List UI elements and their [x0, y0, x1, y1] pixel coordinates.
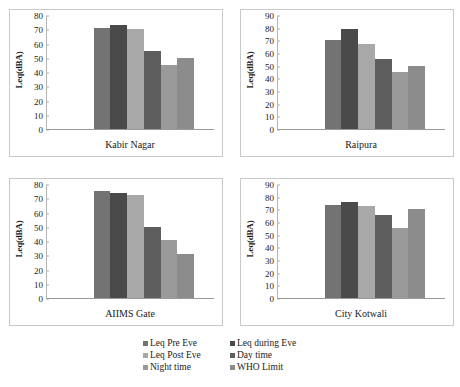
bar: [408, 209, 425, 298]
category-label: Kabir Nagar: [46, 139, 214, 150]
y-axis-ticks: 01020304050607080: [24, 185, 46, 299]
legend-item: Leq during Eve: [230, 337, 296, 349]
bar: [144, 51, 161, 129]
legend-item-label: Day time: [237, 349, 272, 361]
legend-item-label: Leq during Eve: [237, 337, 296, 349]
legend-swatch-icon: [143, 341, 148, 346]
y-axis-tick-label: 80: [265, 193, 274, 202]
y-axis-tick-label: 50: [34, 223, 43, 232]
y-axis-tick-label: 30: [34, 252, 43, 261]
legend-item: Leq Post Eve: [143, 349, 230, 361]
category-label: Raipura: [277, 139, 445, 150]
chart-area: Leq(dBA) 01020304050607080 AIIMS Gate: [10, 179, 222, 325]
y-axis-tick-label: 60: [265, 218, 274, 227]
legend-swatch-icon: [230, 341, 235, 346]
y-axis-ticks: 0102030405060708090: [255, 185, 277, 299]
bar: [408, 66, 425, 129]
chart-area: Leq(dBA) 0102030405060708090 Raipura: [241, 10, 453, 156]
chart-panel-kabir-nagar: Leq(dBA) 01020304050607080 Kabir Nagar: [9, 9, 223, 157]
y-axis-tick-label: 40: [34, 238, 43, 247]
y-axis-tick-label: 30: [34, 83, 43, 92]
bar-group: [278, 16, 445, 129]
bar: [392, 72, 409, 129]
bar: [127, 195, 144, 298]
y-axis-tick-label: 90: [265, 12, 274, 21]
y-axis-tick-label: 40: [265, 75, 274, 84]
panel-grid: Leq(dBA) 01020304050607080 Kabir Nagar L…: [0, 0, 460, 332]
bar: [341, 29, 358, 129]
legend-swatch-icon: [143, 365, 148, 370]
legend-item: Night time: [143, 361, 230, 373]
chart-area: Leq(dBA) 0102030405060708090 City Kotwal…: [241, 179, 453, 325]
bar: [358, 206, 375, 298]
y-axis-tick-label: 20: [265, 269, 274, 278]
legend-item: Day time: [230, 349, 296, 361]
legend-swatch-icon: [230, 353, 235, 358]
bar: [375, 59, 392, 129]
y-axis-tick-label: 20: [34, 97, 43, 106]
bar: [161, 65, 178, 129]
bar: [325, 40, 342, 129]
bar: [144, 227, 161, 298]
y-axis-tick-label: 40: [34, 69, 43, 78]
plot-area: [46, 16, 214, 130]
y-axis-tick-label: 70: [34, 26, 43, 35]
y-axis-label-text: Leq(dBA): [14, 52, 24, 89]
y-axis-tick-label: 0: [39, 126, 44, 135]
bar: [94, 28, 111, 129]
bar: [127, 29, 144, 129]
y-axis-tick-label: 10: [34, 111, 43, 120]
bar: [358, 44, 375, 129]
legend-swatch-icon: [230, 365, 235, 370]
category-label: AIIMS Gate: [46, 308, 214, 319]
y-axis-label-text: Leq(dBA): [14, 221, 24, 258]
bar: [375, 215, 392, 298]
y-axis-tick-label: 0: [270, 126, 275, 135]
bar: [110, 193, 127, 298]
bar: [392, 228, 409, 298]
legend-item-label: Leq Pre Eve: [150, 337, 197, 349]
bar: [177, 254, 194, 298]
bar-group: [47, 16, 214, 129]
y-axis-tick-label: 30: [265, 256, 274, 265]
y-axis-label-text: Leq(dBA): [245, 52, 255, 89]
legend-item: Leq Pre Eve: [143, 337, 230, 349]
bar: [94, 191, 111, 298]
y-axis-tick-label: 70: [265, 37, 274, 46]
bar-group: [278, 185, 445, 298]
y-axis-tick-label: 60: [265, 49, 274, 58]
bar: [177, 58, 194, 129]
y-axis-tick-label: 20: [34, 266, 43, 275]
chart-area: Leq(dBA) 01020304050607080 Kabir Nagar: [10, 10, 222, 156]
bar: [325, 205, 342, 298]
y-axis-ticks: 0102030405060708090: [255, 16, 277, 130]
legend-items: Leq Pre EveLeq during EveLeq Post EveDay…: [143, 337, 296, 373]
y-axis-tick-label: 50: [265, 62, 274, 71]
bar-group: [47, 185, 214, 298]
y-axis-tick-label: 70: [265, 206, 274, 215]
plot-area: [46, 185, 214, 299]
legend-item-label: Night time: [150, 361, 191, 373]
y-axis-label-text: Leq(dBA): [245, 221, 255, 258]
y-axis-ticks: 01020304050607080: [24, 16, 46, 130]
legend: Leq Pre EveLeq during EveLeq Post EveDay…: [0, 334, 460, 387]
y-axis-tick-label: 10: [34, 280, 43, 289]
category-label: City Kotwali: [277, 308, 445, 319]
y-axis-tick-label: 40: [265, 244, 274, 253]
chart-panel-raipura: Leq(dBA) 0102030405060708090 Raipura: [240, 9, 454, 157]
y-axis-tick-label: 10: [265, 113, 274, 122]
y-axis-tick-label: 0: [270, 295, 275, 304]
legend-item-label: Leq Post Eve: [150, 349, 201, 361]
y-axis-tick-label: 30: [265, 87, 274, 96]
legend-swatch-icon: [143, 353, 148, 358]
bar: [110, 25, 127, 129]
plot-area: [277, 16, 445, 130]
y-axis-tick-label: 50: [34, 54, 43, 63]
y-axis-tick-label: 70: [34, 195, 43, 204]
legend-item-label: WHO Limit: [237, 361, 283, 373]
legend-item: WHO Limit: [230, 361, 296, 373]
y-axis-tick-label: 60: [34, 40, 43, 49]
y-axis-tick-label: 20: [265, 100, 274, 109]
y-axis-tick-label: 50: [265, 231, 274, 240]
y-axis-tick-label: 80: [34, 181, 43, 190]
